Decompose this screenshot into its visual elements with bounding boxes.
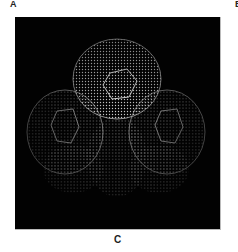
- panel-label-a: A: [10, 0, 17, 9]
- dot-surface-render: [15, 17, 220, 229]
- panel-caption-c: C: [114, 234, 121, 245]
- panel-label-b: B: [235, 0, 238, 9]
- molecular-surface-image: [15, 17, 221, 230]
